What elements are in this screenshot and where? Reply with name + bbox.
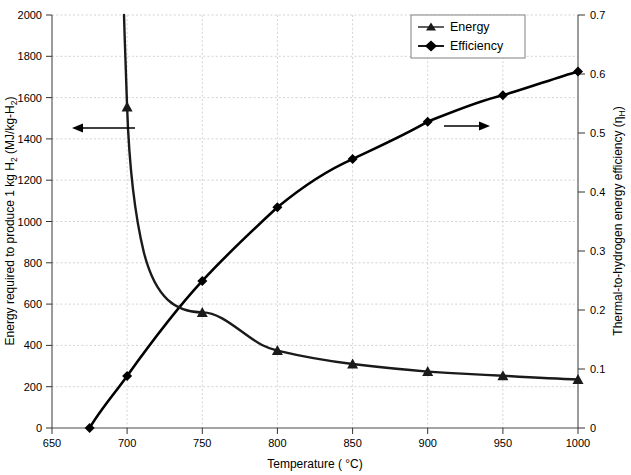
right-tick-06: 0.6 (590, 68, 605, 80)
left-tick-1800: 1800 (18, 50, 42, 62)
left-y-axis-title-part3: ) (3, 97, 17, 101)
left-y-axis-title-part1: Energy required to produce 1 kg H (3, 162, 17, 345)
x-tick-650: 650 (43, 437, 61, 449)
x-tick-950: 950 (494, 437, 512, 449)
left-tick-200: 200 (24, 381, 42, 393)
x-tick-750: 750 (193, 437, 211, 449)
left-tick-0: 0 (36, 422, 42, 434)
right-y-axis-title: Thermal-to-hydrogen energy efficiency (η… (611, 106, 627, 335)
left-tick-400: 400 (24, 339, 42, 351)
x-tick-800: 800 (268, 437, 286, 449)
right-tick-05: 0.5 (590, 127, 605, 139)
left-tick-1600: 1600 (18, 92, 42, 104)
left-tick-1200: 1200 (18, 174, 42, 186)
x-tick-1000: 1000 (566, 437, 590, 449)
right-y-axis-title-part2: ) (611, 106, 625, 110)
right-tick-02: 0.2 (590, 304, 605, 316)
legend-efficiency-label: Efficiency (450, 39, 504, 53)
left-y-axis-title-part2: (MJ/kg-H (3, 105, 17, 157)
right-tick-03: 0.3 (590, 245, 605, 257)
left-tick-1400: 1400 (18, 133, 42, 145)
x-tick-900: 900 (419, 437, 437, 449)
legend-energy-label: Energy (450, 20, 490, 34)
right-tick-0: 0 (590, 422, 596, 434)
x-tick-850: 850 (343, 437, 361, 449)
left-axis-ticks (46, 15, 52, 428)
chart-container: 2000 1800 1600 1400 1200 1000 800 600 40… (0, 0, 631, 475)
x-axis-title: Temperature ( °C) (267, 457, 363, 471)
x-tick-700: 700 (118, 437, 136, 449)
left-axis-tick-labels: 2000 1800 1600 1400 1200 1000 800 600 40… (18, 9, 42, 434)
left-tick-1000: 1000 (18, 216, 42, 228)
right-axis-ticks (578, 15, 585, 428)
chart-canvas: 2000 1800 1600 1400 1200 1000 800 600 40… (0, 0, 631, 475)
legend-item-efficiency[interactable]: Efficiency (418, 39, 504, 53)
right-tick-04: 0.4 (590, 186, 605, 198)
right-tick-01: 0.1 (590, 363, 605, 375)
left-tick-800: 800 (24, 257, 42, 269)
left-tick-600: 600 (24, 298, 42, 310)
right-axis-tick-labels: 0.7 0.6 0.5 0.4 0.3 0.2 0.1 0 (590, 9, 605, 434)
left-y-axis-title: Energy required to produce 1 kg H2 (MJ/k… (3, 97, 19, 346)
right-tick-07: 0.7 (590, 9, 605, 21)
x-axis-ticks (52, 428, 578, 434)
left-tick-2000: 2000 (18, 9, 42, 21)
x-axis-tick-labels: 650 700 750 800 850 900 950 1000 (43, 437, 590, 449)
legend[interactable]: Energy Efficiency (411, 15, 525, 58)
right-y-axis-title-part1: Thermal-to-hydrogen energy efficiency (η (611, 116, 625, 335)
